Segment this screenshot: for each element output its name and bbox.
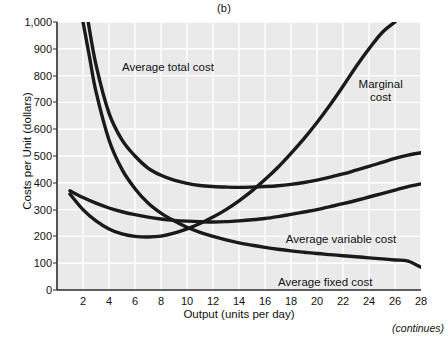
x-tick-label: 22: [337, 295, 349, 307]
axis-lines: [57, 22, 421, 290]
y-tick-label: 200: [34, 230, 52, 242]
x-tick-label: 10: [181, 295, 193, 307]
y-tick-label: 800: [34, 70, 52, 82]
continues-note: (continues): [392, 322, 444, 334]
y-tick-label: 600: [34, 123, 52, 135]
x-tick-label: 2: [80, 295, 86, 307]
y-tick-label: 500: [34, 150, 52, 162]
plot-area: 01002003004005006007008009001,000 246810…: [57, 22, 421, 290]
y-tick-label: 900: [34, 43, 52, 55]
x-tick-label: 18: [285, 295, 297, 307]
x-tick-label: 8: [158, 295, 164, 307]
x-tick-label: 14: [233, 295, 245, 307]
x-tick-label: 24: [363, 295, 375, 307]
x-tick-label: 26: [389, 295, 401, 307]
x-tick-label: 12: [207, 295, 219, 307]
y-tick-label: 700: [34, 96, 52, 108]
x-tick-label: 20: [311, 295, 323, 307]
y-tick-label: 300: [34, 204, 52, 216]
y-tick-label: 1,000: [24, 16, 52, 28]
figure-container: (b) Costs per Unit (dollars) 01002003004…: [0, 0, 448, 340]
x-tick-label: 4: [106, 295, 112, 307]
y-tick-label: 400: [34, 177, 52, 189]
x-tick-label: 6: [132, 295, 138, 307]
x-tick-label: 28: [415, 295, 427, 307]
y-tick-label: 100: [34, 257, 52, 269]
x-axis-title: Output (units per day): [57, 308, 421, 320]
y-axis-title: Costs per Unit (dollars): [21, 56, 33, 246]
panel-label: (b): [0, 2, 448, 14]
x-tick-label: 16: [259, 295, 271, 307]
y-tick-label: 0: [46, 284, 52, 296]
